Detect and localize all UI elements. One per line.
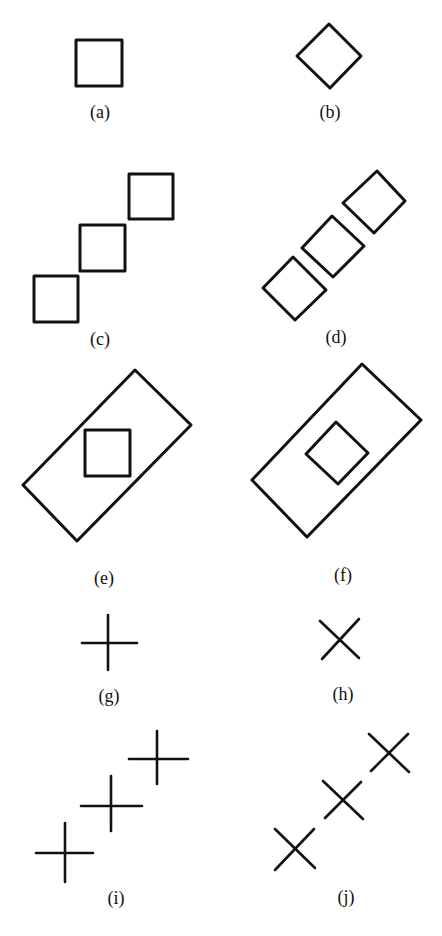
label-e: (e): [94, 568, 114, 589]
label-h: (h): [333, 684, 354, 705]
panel-i-plus-row: [36, 731, 188, 882]
label-d: (d): [326, 327, 347, 348]
panel-a-square: [76, 40, 122, 86]
label-g: (g): [99, 686, 120, 707]
label-b: (b): [320, 102, 341, 123]
panel-e-rect-with-square: [23, 370, 191, 541]
panel-j-x-row: [275, 734, 409, 870]
panel-d-diamonds: [263, 171, 405, 320]
panel-c-squares: [34, 174, 173, 322]
panel-f-rect-with-diamond: [252, 364, 421, 537]
panel-h-x: [320, 619, 359, 659]
label-i: (i): [108, 888, 125, 909]
label-j: (j): [338, 887, 355, 908]
label-f: (f): [334, 565, 352, 586]
figure-canvas: [0, 0, 442, 936]
panel-b-diamond: [297, 24, 361, 88]
label-c: (c): [90, 329, 110, 350]
label-a: (a): [90, 102, 110, 123]
panel-g-plus: [82, 615, 137, 670]
